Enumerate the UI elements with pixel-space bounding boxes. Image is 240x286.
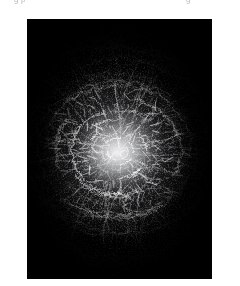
figure-image	[27, 19, 212, 279]
speckle-layer	[27, 19, 212, 279]
figure-panel	[27, 19, 212, 279]
caption-right-fragment: g	[186, 0, 191, 6]
page-root: g p g	[0, 0, 240, 286]
caption-left-fragment: g p	[14, 0, 26, 6]
clipped-caption: g p g	[0, 0, 240, 7]
